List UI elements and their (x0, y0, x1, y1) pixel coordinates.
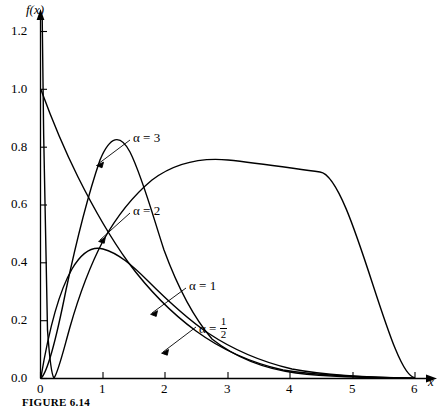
fraction-numerator: 1 (220, 316, 228, 329)
y-axis-ticks (41, 32, 48, 379)
axis-lines (41, 18, 429, 379)
y-tick-label-0: 0.0 (11, 370, 27, 386)
y-tick-label-5: 1.0 (11, 81, 27, 97)
x-tick-label-4: 4 (286, 381, 293, 397)
curve-label-alpha-1: α = 1 (189, 278, 216, 294)
fraction-one-half: 12 (220, 316, 228, 340)
x-tick-label-2: 2 (161, 381, 168, 397)
x-tick-label-1: 1 (99, 381, 106, 397)
curve-alpha-3 (41, 140, 415, 379)
x-tick-label-0: 0 (37, 381, 44, 397)
curve-alpha-half (42, 18, 415, 378)
y-tick-label-1: 0.2 (11, 312, 27, 328)
annotation-leader-lines (97, 140, 197, 355)
curve-alpha-1 (41, 89, 415, 378)
chart-plot-area (0, 0, 443, 409)
x-axis-label: x (428, 374, 434, 390)
density-curves (41, 18, 415, 378)
curve-alpha-2 (41, 248, 415, 378)
curve-label-alpha-3: α = 3 (133, 130, 160, 146)
figure-gamma-densities: f(x) x 0.0 0.2 0.4 0.6 0.8 1.0 1.2 0 1 2… (0, 0, 443, 409)
leader-alpha-half (163, 327, 196, 352)
y-axis-label: f(x) (26, 2, 44, 18)
figure-caption: FIGURE 6.14 (22, 396, 90, 408)
x-tick-label-6: 6 (411, 381, 418, 397)
curve-label-alpha-half: α = 12 (199, 316, 227, 340)
x-tick-label-3: 3 (224, 381, 231, 397)
y-tick-label-4: 0.8 (11, 139, 27, 155)
y-tick-label-2: 0.4 (11, 254, 27, 270)
x-tick-label-5: 5 (349, 381, 356, 397)
curve-label-alpha-2: α = 2 (133, 203, 160, 219)
fraction-denominator: 2 (220, 329, 228, 341)
leader-alpha-3 (98, 140, 130, 164)
y-tick-label-6: 1.2 (11, 23, 27, 39)
y-tick-label-3: 0.6 (11, 196, 27, 212)
curve-label-alpha-half-prefix: α = (199, 321, 220, 336)
